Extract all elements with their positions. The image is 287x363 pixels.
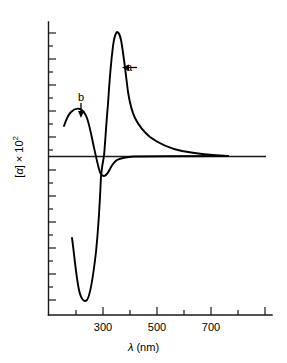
y-axis-title-multiplier: × 10 bbox=[13, 140, 25, 162]
x-axis-title-symbol: λ bbox=[128, 341, 133, 353]
y-axis-title-bracket-close: ] bbox=[13, 165, 25, 168]
x-axis-title: λ (nm) bbox=[0, 341, 287, 353]
x-tick-label-500: 500 bbox=[148, 321, 166, 333]
x-axis-title-unit: (nm) bbox=[136, 341, 159, 353]
annotation-label-b: b bbox=[78, 92, 84, 103]
y-axis-title-symbol: α bbox=[13, 168, 25, 174]
y-axis-title-exponent: 2 bbox=[11, 136, 20, 140]
y-axis-title: [α] × 102 bbox=[11, 102, 25, 212]
ord-chart-svg: 300 500 700 bbox=[0, 0, 287, 363]
x-axis-ticks bbox=[76, 307, 265, 315]
curve-a bbox=[72, 32, 228, 301]
curve-b bbox=[64, 109, 228, 176]
x-tick-label-700: 700 bbox=[202, 321, 220, 333]
y-axis-ticks bbox=[49, 33, 57, 300]
figure-root: 300 500 700 a b λ (nm) [α] × 102 bbox=[0, 0, 287, 363]
annotation-label-a: a bbox=[126, 62, 132, 73]
x-tick-label-300: 300 bbox=[94, 321, 112, 333]
y-axis-title-bracket-open: [ bbox=[13, 175, 25, 178]
